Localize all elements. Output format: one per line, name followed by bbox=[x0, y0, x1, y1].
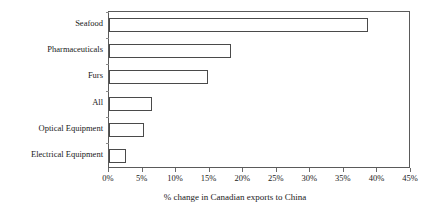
y-axis-tick bbox=[106, 64, 109, 65]
x-axis-tick-label: 15% bbox=[192, 173, 226, 183]
y-axis-tick bbox=[106, 143, 109, 144]
bar-seafood bbox=[109, 18, 368, 32]
x-axis-tick-label: 35% bbox=[326, 173, 360, 183]
x-axis-tick-label: 40% bbox=[359, 173, 393, 183]
x-axis-tick bbox=[410, 168, 411, 172]
bar-chart: Seafood Pharmaceuticals Furs All Optical… bbox=[0, 0, 434, 215]
bar-all bbox=[109, 97, 152, 111]
y-axis-label-optical-equipment: Optical Equipment bbox=[0, 124, 103, 133]
x-axis-tick-label: 0% bbox=[91, 173, 125, 183]
x-axis-tick-label: 10% bbox=[158, 173, 192, 183]
bar-pharmaceuticals bbox=[109, 44, 231, 58]
x-axis-tick-label: 20% bbox=[225, 173, 259, 183]
y-axis-tick bbox=[106, 38, 109, 39]
bars-layer bbox=[109, 12, 409, 167]
x-axis-tick bbox=[343, 168, 344, 172]
x-axis-tick bbox=[142, 168, 143, 172]
x-axis-tick-label: 30% bbox=[292, 173, 326, 183]
x-axis-tick bbox=[276, 168, 277, 172]
y-axis-category-labels: Seafood Pharmaceuticals Furs All Optical… bbox=[0, 11, 103, 168]
x-axis-tick bbox=[108, 168, 109, 172]
y-axis-tick bbox=[106, 12, 109, 13]
y-axis-label-furs: Furs bbox=[0, 71, 103, 80]
bar-furs bbox=[109, 70, 208, 84]
x-axis-title-text: % change in Canadian exports to China bbox=[128, 192, 306, 203]
bar-optical-equipment bbox=[109, 123, 144, 137]
x-axis-tick bbox=[309, 168, 310, 172]
y-axis-label-pharmaceuticals: Pharmaceuticals bbox=[0, 45, 103, 54]
x-axis-tick-label: 25% bbox=[259, 173, 293, 183]
y-axis-tick bbox=[106, 91, 109, 92]
x-axis-tick bbox=[209, 168, 210, 172]
y-axis-label-all: All bbox=[0, 98, 103, 107]
x-axis-ticks: 0%5%10%15%20%25%30%35%40%45% bbox=[108, 168, 410, 188]
y-axis-label-seafood: Seafood bbox=[0, 19, 103, 28]
bar-electrical-equipment bbox=[109, 149, 126, 163]
x-axis-title: % change in Canadian exports to China bbox=[0, 192, 434, 203]
x-axis-tick-label: 5% bbox=[125, 173, 159, 183]
x-axis-tick-label: 45% bbox=[393, 173, 427, 183]
x-axis-tick bbox=[242, 168, 243, 172]
y-axis-label-electrical-equipment: Electrical Equipment bbox=[0, 150, 103, 159]
y-axis-tick bbox=[106, 117, 109, 118]
plot-area bbox=[108, 11, 410, 168]
x-axis-tick bbox=[376, 168, 377, 172]
x-axis-tick bbox=[175, 168, 176, 172]
